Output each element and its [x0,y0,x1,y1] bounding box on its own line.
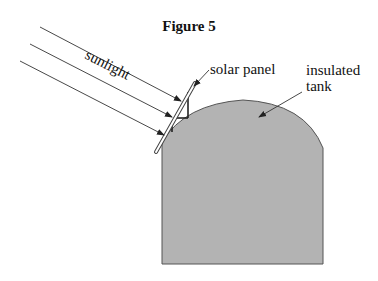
figure-diagram: Figure 5 sunlight solar panel insulated … [0,0,378,281]
insulated-tank [162,100,323,264]
figure-title: Figure 5 [162,18,215,34]
sunlight-ray-3 [20,61,164,135]
tank-label-line1: insulated [306,62,361,78]
sunlight-rays [20,27,181,135]
tank-label-line2: tank [306,78,332,94]
solar-panel-leader [194,70,209,86]
solar-panel-label: solar panel [210,61,275,77]
sunlight-label: sunlight [83,46,134,83]
